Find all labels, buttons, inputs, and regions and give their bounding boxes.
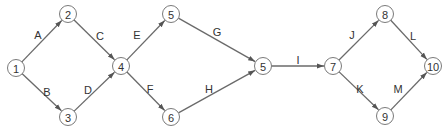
edge-label-f: F: [147, 83, 154, 95]
network-diagram: ABCDEFGHIJKLM 123456578910: [0, 0, 444, 130]
edge-label-g: G: [213, 26, 222, 38]
node-label: 3: [65, 112, 71, 124]
edge-b-arrow: [22, 74, 61, 111]
node-n10: 10: [425, 58, 442, 75]
edge-label-a: A: [34, 29, 42, 41]
edge-label-j: J: [349, 29, 355, 41]
node-label: 5: [260, 61, 266, 73]
node-label: 4: [118, 61, 124, 73]
node-n8: 8: [377, 6, 394, 23]
edge-j-arrow: [339, 20, 379, 60]
edge-label-h: H: [205, 83, 213, 95]
edge-c-arrow: [74, 20, 115, 60]
edges-layer: [22, 18, 427, 113]
node-label: 7: [330, 61, 336, 73]
node-label: 8: [382, 9, 388, 21]
edge-g-arrow: [178, 18, 255, 61]
edge-label-b: B: [43, 86, 50, 98]
edge-label-i: I: [296, 54, 299, 66]
edge-label-c: C: [96, 30, 104, 42]
edge-label-l: L: [410, 30, 416, 42]
node-label: 6: [168, 112, 174, 124]
node-label: 9: [382, 111, 388, 123]
node-label: 1: [13, 63, 19, 75]
edge-a-arrow: [22, 20, 62, 61]
node-n2: 2: [60, 6, 77, 23]
node-n9: 9: [377, 108, 394, 125]
node-label: 5: [168, 9, 174, 21]
edge-label-m: M: [393, 83, 402, 95]
node-n4: 4: [113, 58, 130, 75]
node-n5a: 5: [163, 6, 180, 23]
node-label: 2: [65, 9, 71, 21]
node-label: 10: [427, 61, 439, 73]
node-n5b: 5: [255, 58, 272, 75]
edge-h-arrow: [178, 70, 255, 113]
edge-label-d: D: [84, 84, 92, 96]
node-n7: 7: [325, 58, 342, 75]
edge-label-k: K: [356, 83, 364, 95]
node-n3: 3: [60, 109, 77, 126]
edge-l-arrow: [391, 20, 427, 59]
node-n1: 1: [8, 60, 25, 77]
edge-label-e: E: [133, 29, 140, 41]
node-n6: 6: [163, 109, 180, 126]
edge-d-arrow: [74, 72, 114, 111]
